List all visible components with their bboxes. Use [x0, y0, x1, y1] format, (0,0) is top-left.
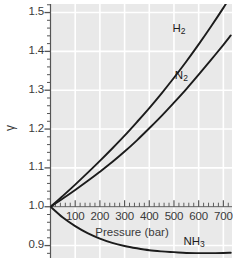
y-axis-title: γ — [3, 117, 17, 139]
series-label-NH₃: NH3 — [183, 235, 204, 247]
y-tick-label: 0.9 — [12, 238, 44, 250]
x-axis-title: Pressure (bar) — [92, 226, 172, 238]
y-axis-ticks — [45, 5, 51, 254]
series-label-N₂: N2 — [175, 69, 188, 81]
y-tick-label: 1.4 — [12, 44, 44, 56]
y-tick-label: 1.5 — [12, 5, 44, 17]
series-label-H₂: H2 — [172, 22, 185, 34]
y-tick-label: 1.1 — [12, 160, 44, 172]
x-tick-label: 700 — [207, 210, 233, 222]
y-tick-label: 1.0 — [12, 199, 44, 211]
chart-figure: 0.91.01.11.21.31.41.5 100200300400500600… — [0, 0, 233, 264]
y-tick-label: 1.3 — [12, 83, 44, 95]
